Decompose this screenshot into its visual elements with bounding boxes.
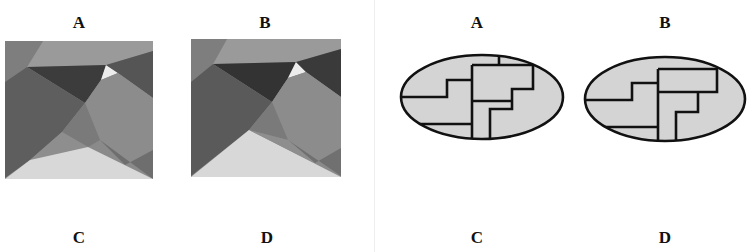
ellipse-figure-a [395, 50, 563, 145]
mosaic-figure-b [191, 39, 341, 177]
figures-canvas [0, 0, 755, 252]
ellipse-figure-b [580, 57, 745, 148]
mosaic-figure-a [5, 41, 153, 179]
